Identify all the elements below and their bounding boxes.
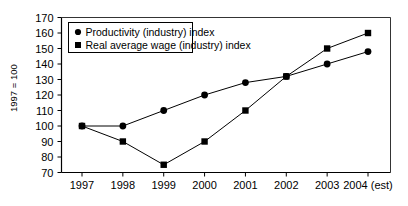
- data-point-marker: [161, 162, 167, 168]
- legend-marker-square: [75, 42, 81, 48]
- y-tick-label: 70: [41, 167, 53, 179]
- y-tick-label: 90: [41, 136, 53, 148]
- data-point-marker: [283, 73, 289, 79]
- data-point-marker: [324, 45, 330, 51]
- x-tick-label: 1999: [151, 179, 175, 191]
- data-point-marker: [201, 138, 207, 144]
- line-chart: 1997 = 100 70809010011012013014015016017…: [0, 0, 408, 206]
- x-tick-label: 2000: [192, 179, 216, 191]
- legend-label: Real average wage (industry) index: [86, 39, 252, 51]
- y-tick-label: 130: [35, 74, 53, 86]
- x-tick-label: 1997: [70, 179, 94, 191]
- legend-label: Productivity (industry) index: [86, 26, 216, 38]
- y-axis-title: 1997 = 100: [8, 64, 19, 112]
- y-tick-label: 120: [35, 89, 53, 101]
- x-tick-label: 2004 (est): [343, 179, 393, 191]
- data-point-marker: [79, 123, 85, 129]
- y-tick-label: 170: [35, 12, 53, 24]
- data-point-marker: [242, 79, 249, 86]
- x-tick-label: 2001: [233, 179, 257, 191]
- y-tick-label: 150: [35, 43, 53, 55]
- x-tick-label: 1998: [111, 179, 135, 191]
- y-tick-label: 80: [41, 151, 53, 163]
- y-tick-label: 140: [35, 58, 53, 70]
- data-point-marker: [365, 48, 372, 55]
- y-tick-label: 100: [35, 120, 53, 132]
- data-point-marker: [119, 123, 126, 130]
- data-point-marker: [324, 61, 331, 68]
- x-tick-label: 2002: [274, 179, 298, 191]
- chart-container: 1997 = 100 70809010011012013014015016017…: [0, 0, 408, 206]
- data-point-marker: [160, 107, 167, 114]
- data-point-marker: [201, 92, 208, 99]
- x-tick-label: 2003: [315, 179, 339, 191]
- y-tick-label: 160: [35, 27, 53, 39]
- legend-marker-circle: [75, 29, 81, 35]
- data-point-marker: [242, 107, 248, 113]
- data-point-marker: [365, 30, 371, 36]
- y-tick-label: 110: [36, 105, 54, 117]
- data-point-marker: [120, 138, 126, 144]
